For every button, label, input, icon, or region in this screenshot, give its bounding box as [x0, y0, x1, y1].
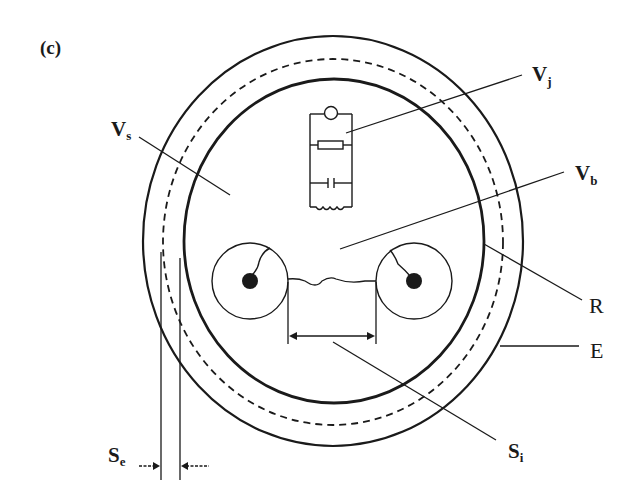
label-vs: Vs — [111, 117, 131, 143]
electrode-left-core — [242, 273, 258, 289]
outer-ring — [143, 36, 523, 446]
electrode-right — [376, 243, 452, 319]
panel-label: (c) — [40, 37, 61, 59]
inductor-icon — [310, 207, 352, 210]
electrode-left — [212, 243, 288, 319]
resistor-icon — [318, 141, 343, 149]
electrode-right-core — [406, 273, 422, 289]
circuit-element — [310, 107, 352, 210]
label-e: E — [590, 338, 603, 363]
leader-r — [484, 244, 582, 300]
si-dimension — [288, 282, 376, 344]
label-vb: Vb — [575, 161, 597, 188]
leader-vb — [340, 172, 564, 249]
label-vj: Vj — [532, 62, 552, 89]
leader-vs — [139, 137, 230, 195]
label-se: Se — [108, 443, 126, 469]
dashed-ring — [163, 59, 503, 425]
se-dimension — [139, 252, 209, 480]
inner-ring — [184, 79, 484, 403]
label-si: Si — [508, 439, 524, 465]
label-r: R — [589, 293, 604, 318]
inter-electrode-path — [288, 278, 376, 285]
lamp-icon — [325, 107, 338, 120]
diagram-canvas: (c) — [0, 0, 635, 495]
